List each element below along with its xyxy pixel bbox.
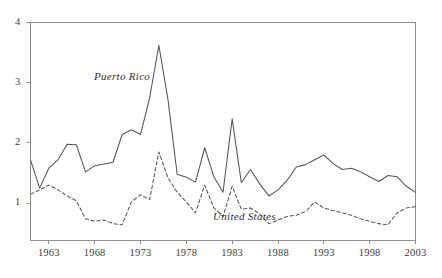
x-tick-label: 2003 xyxy=(396,247,436,258)
x-tick-label: 1973 xyxy=(121,247,161,258)
x-tick-label: 1978 xyxy=(166,247,206,258)
x-tick-label: 1963 xyxy=(29,247,69,258)
x-tick-label: 1988 xyxy=(258,247,298,258)
y-tick-label: 1 xyxy=(5,196,21,207)
data-series-group xyxy=(31,45,416,224)
line-chart-figure: 1234 19631968197319781983198819931998200… xyxy=(0,0,442,278)
axes xyxy=(31,23,416,241)
series-label-puerto-rico: Puerto Rico xyxy=(94,70,150,82)
x-tick-label: 1993 xyxy=(304,247,344,258)
x-tick-label: 1983 xyxy=(212,247,252,258)
y-tick-label: 4 xyxy=(5,16,21,27)
series-line-puerto-rico xyxy=(31,45,416,196)
x-tick-label: 1998 xyxy=(350,247,390,258)
plot-area xyxy=(0,0,442,278)
x-tick-label: 1968 xyxy=(75,247,115,258)
y-tick-label: 2 xyxy=(5,136,21,147)
series-label-united-states: United States xyxy=(213,210,276,222)
y-tick-label: 3 xyxy=(5,76,21,87)
